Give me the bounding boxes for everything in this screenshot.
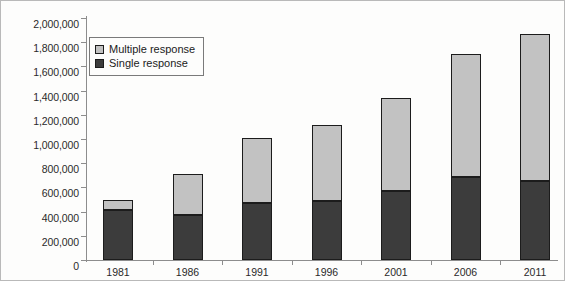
legend-swatch-multiple-response-icon bbox=[95, 45, 104, 54]
category-axis-tick bbox=[222, 260, 223, 265]
value-axis-tick bbox=[81, 236, 86, 237]
legend-label-single-response: Single response bbox=[109, 57, 188, 70]
bar-segment-multiple-response bbox=[242, 138, 272, 203]
value-axis-label: 600,000 bbox=[3, 187, 79, 199]
bar-segment-multiple-response bbox=[173, 174, 203, 215]
category-axis-tick bbox=[153, 260, 154, 265]
value-axis-tick bbox=[81, 66, 86, 67]
value-axis-label: 200,000 bbox=[3, 236, 79, 248]
value-axis-tick bbox=[81, 139, 86, 140]
category-axis-tick bbox=[431, 260, 432, 265]
bar-segment-multiple-response bbox=[381, 98, 411, 191]
bar-segment-multiple-response bbox=[451, 54, 481, 177]
value-axis-tick bbox=[81, 187, 86, 188]
legend-label-multiple-response: Multiple response bbox=[109, 43, 195, 56]
legend-item-single-response: Single response bbox=[95, 56, 195, 70]
value-axis-tick bbox=[81, 163, 86, 164]
category-axis-tick bbox=[361, 260, 362, 265]
legend-item-multiple-response: Multiple response bbox=[95, 42, 195, 56]
bar-segment-single-response bbox=[173, 215, 203, 260]
bar-1986 bbox=[173, 174, 203, 260]
value-axis-label: 1,600,000 bbox=[3, 66, 79, 78]
value-axis-label: 1,400,000 bbox=[3, 91, 79, 103]
bar-segment-single-response bbox=[381, 191, 411, 260]
chart-legend: Multiple response Single response bbox=[89, 37, 204, 76]
bar-segment-single-response bbox=[312, 201, 342, 260]
stacked-bar-chart: 0200,000400,000600,000800,0001,000,0001,… bbox=[0, 0, 565, 281]
bar-segment-single-response bbox=[242, 203, 272, 260]
value-axis-tick bbox=[81, 91, 86, 92]
value-axis-tick bbox=[81, 212, 86, 213]
bar-2001 bbox=[381, 98, 411, 260]
bar-segment-multiple-response bbox=[312, 125, 342, 201]
bar-segment-multiple-response bbox=[520, 34, 550, 181]
category-axis-tick bbox=[500, 260, 501, 265]
bar-segment-multiple-response bbox=[103, 200, 133, 210]
bar-segment-single-response bbox=[520, 181, 550, 260]
value-axis-label: 1,200,000 bbox=[3, 115, 79, 127]
bar-1991 bbox=[242, 138, 272, 260]
value-axis-tick bbox=[81, 260, 86, 261]
bar-2006 bbox=[451, 54, 481, 260]
value-axis-label: 400,000 bbox=[3, 212, 79, 224]
value-axis-label: 1,000,000 bbox=[3, 139, 79, 151]
value-axis-tick bbox=[81, 18, 86, 19]
value-axis-label: 1,800,000 bbox=[3, 42, 79, 54]
category-axis-label: 2006 bbox=[454, 266, 477, 278]
category-axis-label: 1996 bbox=[315, 266, 338, 278]
bar-segment-single-response bbox=[451, 177, 481, 260]
category-axis-tick bbox=[292, 260, 293, 265]
category-axis-label: 1991 bbox=[245, 266, 268, 278]
category-axis-line bbox=[86, 260, 558, 261]
legend-swatch-single-response-icon bbox=[95, 59, 104, 68]
bar-1996 bbox=[312, 125, 342, 260]
bar-segment-single-response bbox=[103, 210, 133, 260]
category-axis-label: 1986 bbox=[176, 266, 199, 278]
bar-1981 bbox=[103, 200, 133, 260]
value-axis-label: 2,000,000 bbox=[3, 18, 79, 30]
value-axis-label: 0 bbox=[3, 260, 79, 272]
category-axis-label: 2001 bbox=[384, 266, 407, 278]
category-axis-label: 1981 bbox=[106, 266, 129, 278]
bar-2011 bbox=[520, 34, 550, 260]
value-axis-tick bbox=[81, 42, 86, 43]
value-axis-line bbox=[86, 16, 87, 262]
value-axis-label: 800,000 bbox=[3, 163, 79, 175]
value-axis-tick bbox=[81, 115, 86, 116]
category-axis-label: 2011 bbox=[524, 266, 547, 278]
